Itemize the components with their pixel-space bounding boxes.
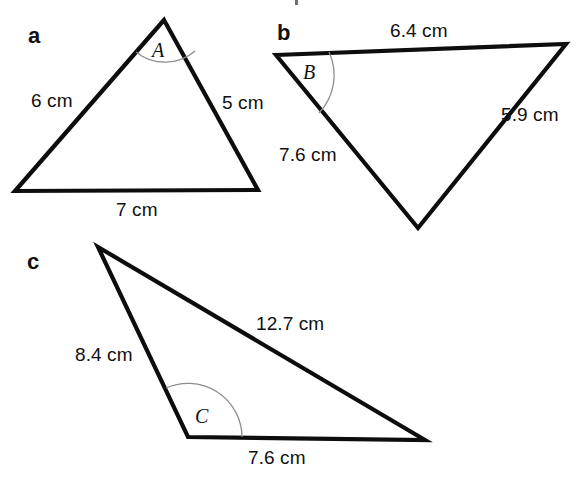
item-letter-c: c xyxy=(27,251,39,273)
angle-label-b: B xyxy=(303,62,315,82)
side-label-b-top: 6.4 cm xyxy=(390,21,448,40)
item-letter-a: a xyxy=(28,25,40,47)
side-label-c-long: 12.7 cm xyxy=(256,314,324,333)
side-label-a-base: 7 cm xyxy=(116,200,158,219)
angle-label-a: A xyxy=(152,40,164,60)
item-letter-b: b xyxy=(277,22,290,44)
triangle-b-angle-arc xyxy=(319,52,334,113)
triangle-b-outline xyxy=(276,44,566,228)
triangles-figure: a b c A B C 6 cm 5 cm 7 cm 6.4 cm 5.9 cm… xyxy=(0,0,576,484)
side-label-c-base: 7.6 cm xyxy=(248,448,306,467)
triangles-svg xyxy=(0,0,576,484)
side-label-b-left: 7.6 cm xyxy=(279,145,337,164)
side-label-a-right: 5 cm xyxy=(222,93,264,112)
angle-label-c: C xyxy=(195,406,208,426)
side-label-a-left: 6 cm xyxy=(31,91,73,110)
triangle-c-outline xyxy=(98,247,425,440)
side-label-c-left: 8.4 cm xyxy=(75,345,133,364)
side-label-b-right: 5.9 cm xyxy=(501,105,559,124)
